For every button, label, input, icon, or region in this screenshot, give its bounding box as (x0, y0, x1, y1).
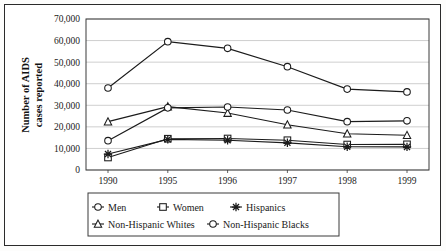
y-tick-label: 0 (75, 165, 80, 175)
y-tick-label: 30,000 (54, 101, 80, 111)
y-axis-title-text: Number of AIDScases reported (20, 57, 44, 133)
y-tick-label: 10,000 (54, 144, 80, 154)
legend-label: Non-Hispanic Whites (108, 219, 195, 230)
y-axis-title-line2: cases reported (33, 63, 44, 127)
data-point (104, 150, 112, 158)
series-line (108, 107, 407, 141)
series-line (108, 42, 407, 92)
data-point (165, 38, 172, 45)
data-point (403, 143, 411, 151)
legend-item-non-hispanic-whites[interactable]: Non-Hispanic Whites (92, 219, 195, 230)
legend-label: Non-Hispanic Blacks (223, 219, 309, 230)
data-point (105, 85, 112, 92)
data-point (284, 107, 291, 114)
legend-label: Men (108, 202, 126, 213)
data-point (224, 45, 231, 52)
legend-marker-star-icon (232, 203, 240, 211)
chart-legend[interactable]: MenWomenHispanicsNon-Hispanic WhitesNon-… (88, 193, 339, 236)
data-point (284, 63, 291, 70)
legend-marker-circle-icon (95, 204, 102, 211)
x-tick-label: 1997 (278, 176, 297, 186)
data-point (164, 135, 172, 143)
legend-label: Women (173, 202, 204, 213)
legend-marker-circle-icon (210, 221, 217, 228)
y-axis-tick-labels: 010,00020,00030,00040,00050,00060,00070,… (54, 14, 80, 175)
legend-label: Hispanics (246, 202, 286, 213)
y-tick-label: 70,000 (54, 14, 80, 24)
y-axis-title-line1: Number of AIDS (20, 57, 31, 133)
data-point (105, 137, 112, 144)
x-tick-label: 1990 (99, 176, 118, 186)
data-point (404, 118, 411, 125)
data-point (344, 86, 351, 93)
x-tick-label: 1999 (398, 176, 417, 186)
y-tick-label: 50,000 (54, 58, 80, 68)
data-point (224, 104, 231, 111)
y-tick-label: 40,000 (54, 79, 80, 89)
series-hispanics (104, 135, 411, 158)
legend-item-non-hispanic-blacks[interactable]: Non-Hispanic Blacks (207, 219, 309, 230)
x-tick-label: 1996 (218, 176, 237, 186)
data-point (404, 89, 411, 96)
y-axis-title: Number of AIDScases reported (20, 57, 44, 133)
data-series-group (104, 38, 411, 160)
series-women (105, 135, 411, 161)
x-tick-label: 1998 (338, 176, 357, 186)
aids-cases-line-chart: 010,00020,00030,00040,00050,00060,00070,… (0, 0, 446, 251)
data-point (343, 143, 351, 151)
legend-marker-square-icon (160, 204, 167, 211)
series-men (105, 38, 411, 95)
x-tick-label: 1995 (158, 176, 177, 186)
data-point (165, 105, 172, 112)
series-line (108, 139, 407, 154)
data-point (344, 118, 351, 125)
data-point (283, 139, 291, 147)
x-axis-tick-labels: 199019951996199719981999 (99, 170, 417, 186)
series-non-hispanic-blacks (105, 104, 411, 144)
chart-figure: 010,00020,00030,00040,00050,00060,00070,… (0, 0, 446, 251)
data-point (223, 136, 231, 144)
y-tick-label: 20,000 (54, 122, 80, 132)
y-tick-label: 60,000 (54, 36, 80, 46)
